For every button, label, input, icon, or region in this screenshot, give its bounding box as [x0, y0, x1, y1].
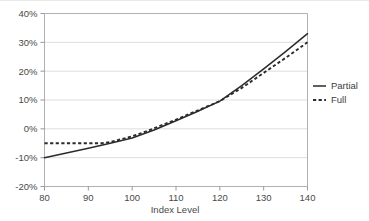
- gridlines: [45, 42, 308, 157]
- x-tick-label-100: 100: [124, 192, 140, 203]
- data-series: [45, 34, 308, 158]
- line-chart: -20%-10%0%10%20%30%40% 80901001101201301…: [0, 0, 369, 221]
- x-tick-label-140: 140: [300, 192, 316, 203]
- y-axis-ticks: -20%-10%0%10%20%30%40%: [15, 8, 44, 192]
- y-tick-label-40: 40%: [18, 8, 38, 19]
- series-line-partial: [45, 34, 308, 158]
- x-tick-label-120: 120: [212, 192, 228, 203]
- y-tick-label-0: 0%: [24, 123, 38, 134]
- chart-container: -20%-10%0%10%20%30%40% 80901001101201301…: [0, 0, 369, 221]
- y-tick-label--20: -20%: [15, 181, 38, 192]
- y-tick-label-20: 20%: [18, 66, 38, 77]
- x-tick-label-130: 130: [256, 192, 272, 203]
- legend-label-full: Full: [331, 94, 346, 105]
- x-axis-ticks: 8090100110120130140: [39, 187, 315, 203]
- x-tick-label-90: 90: [83, 192, 94, 203]
- chart-legend: PartialFull: [313, 80, 358, 105]
- x-tick-label-80: 80: [39, 192, 50, 203]
- y-tick-label-30: 30%: [18, 37, 38, 48]
- y-tick-label-10: 10%: [18, 94, 38, 105]
- x-tick-label-110: 110: [168, 192, 183, 203]
- series-line-full: [45, 42, 308, 143]
- legend-label-partial: Partial: [331, 80, 358, 91]
- x-axis-title: Index Level: [151, 204, 200, 215]
- y-tick-label--10: -10%: [15, 152, 38, 163]
